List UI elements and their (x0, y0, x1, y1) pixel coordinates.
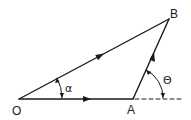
vector-ob (19, 19, 169, 99)
point-label-b: B (170, 7, 178, 21)
point-label-o: O (12, 104, 21, 118)
theta-arc-arrow-top-icon (146, 70, 152, 75)
vector-triangle-diagram: O A B α Θ (0, 0, 191, 120)
theta-arc-arrow-bottom-icon (161, 93, 165, 98)
angle-label-theta: Θ (163, 74, 172, 87)
arrowhead-oa-icon (83, 96, 91, 102)
point-label-a: A (127, 103, 135, 117)
angle-label-alpha: α (65, 82, 72, 95)
arrowhead-ob-icon (95, 54, 104, 61)
alpha-arc-arrow-bottom-icon (60, 93, 64, 98)
